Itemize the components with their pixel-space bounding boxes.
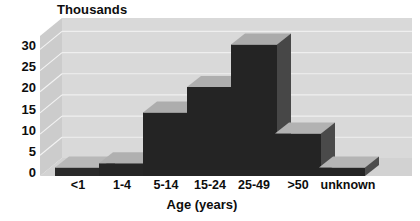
- bar-chart: Thousands 30 25 20: [0, 0, 420, 221]
- y-tick-25: 25: [2, 60, 36, 73]
- x-axis-title-text: Age (years): [167, 197, 238, 212]
- y-axis-title: Thousands: [57, 2, 127, 17]
- y-tick-5: 5: [2, 145, 36, 158]
- y-tick-20: 20: [2, 81, 36, 94]
- y-tick-15: 15: [2, 103, 36, 116]
- x-axis-title: Age (years): [0, 197, 420, 212]
- x-axis-ticks: <1 1-4 5-14 15-24 25-49 >50 unknown: [0, 178, 420, 196]
- plot-area: [40, 18, 412, 176]
- x-tick-unknown: unknown: [310, 178, 386, 192]
- y-tick-30: 30: [2, 39, 36, 52]
- y-tick-10: 10: [2, 124, 36, 137]
